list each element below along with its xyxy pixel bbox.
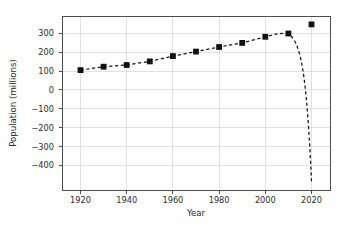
- x-tick-label: 2020: [301, 195, 322, 205]
- y-axis-title: Population (millions): [8, 59, 18, 147]
- outlier-data-point-marker: [309, 22, 315, 28]
- x-tick-label: 2000: [255, 195, 276, 205]
- data-series-outlier: [309, 22, 315, 28]
- data-point-marker: [286, 31, 292, 37]
- population-line-chart: 300 200 100 0 −100 −200 −300 −400 1920 1…: [0, 0, 342, 231]
- chart-figure: 300 200 100 0 −100 −200 −300 −400 1920 1…: [0, 0, 342, 231]
- data-point-marker: [124, 62, 130, 68]
- plot-background: [62, 16, 330, 190]
- x-tick-label: 1940: [116, 195, 137, 205]
- data-point-marker: [147, 59, 153, 65]
- data-point-marker: [216, 44, 222, 50]
- x-axis-title: Year: [186, 208, 206, 218]
- y-tick-label: −300: [32, 142, 55, 152]
- y-tick-label: −400: [32, 160, 55, 170]
- y-tick-label: 0: [49, 85, 54, 95]
- y-tick-label: 100: [38, 66, 54, 76]
- data-point-marker: [170, 53, 176, 59]
- data-point-marker: [78, 67, 84, 73]
- y-tick-label: −200: [32, 123, 55, 133]
- x-tick-label: 1980: [209, 195, 230, 205]
- data-point-marker: [101, 64, 107, 70]
- data-point-marker: [193, 49, 199, 55]
- y-tick-label: 200: [38, 47, 54, 57]
- x-tick-label: 1960: [162, 195, 183, 205]
- data-point-marker: [262, 34, 268, 40]
- y-tick-label: 300: [38, 28, 54, 38]
- data-point-marker: [239, 40, 245, 46]
- x-tick-label: 1920: [70, 195, 91, 205]
- y-tick-label: −100: [32, 104, 55, 114]
